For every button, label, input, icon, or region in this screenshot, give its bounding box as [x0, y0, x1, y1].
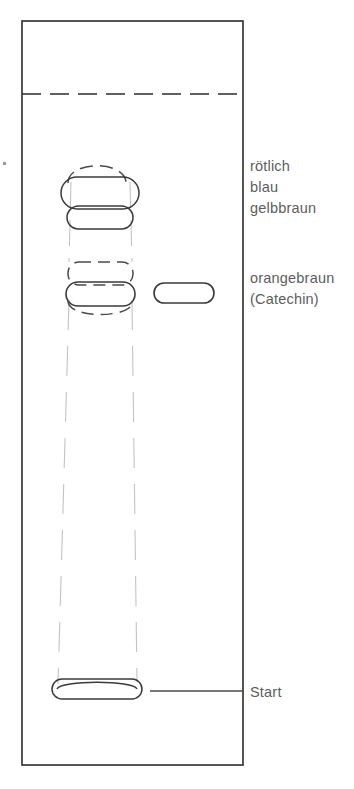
label-orangebraun: orangebraun [250, 268, 334, 289]
spot-catechin-reference [154, 283, 214, 303]
plate-border [22, 21, 243, 765]
spot-upper-dashed-arc [68, 166, 126, 183]
label-blau: blau [250, 177, 316, 198]
label-group-mid-zone: orangebraun (Catechin) [250, 268, 334, 310]
spot-start-inner [57, 682, 137, 689]
label-roetlich: rötlich [250, 156, 316, 177]
edge-artifact-mark [3, 162, 6, 165]
tlc-plate-drawing [0, 0, 354, 789]
lane-guide-right-lower [132, 300, 137, 682]
label-start: Start [250, 682, 282, 703]
label-group-start-zone: Start [250, 682, 282, 703]
spot-mid-dashed-lower [68, 301, 133, 315]
lane-guide-left-lower [58, 300, 69, 684]
spot-upper-large [61, 177, 139, 209]
label-group-upper-zone: rötlich blau gelbbraun [250, 156, 316, 219]
lane-guide-left [69, 182, 71, 262]
label-gelbbraun: gelbbraun [250, 198, 316, 219]
label-catechin: (Catechin) [250, 289, 334, 310]
tlc-figure: rötlich blau gelbbraun orangebraun (Cate… [0, 0, 354, 789]
